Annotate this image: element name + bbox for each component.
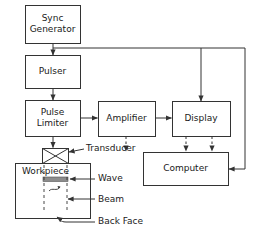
block-display [173,102,231,137]
callout-label-beam: Beam [98,194,124,204]
callout-label-wave: Wave [98,173,123,183]
block-amplifier [99,102,156,137]
data-links-to-computer [126,137,212,152]
transducer-label: Transducer [86,143,135,153]
leader-transducer [69,149,84,152]
diagram-vector-layer [0,0,258,237]
workpiece-label: Workpiece [22,166,69,176]
callout-label-back-face: Back Face [98,216,143,226]
block-sync-generator [26,6,81,44]
block-pulse-limiter [26,101,81,137]
diagram-canvas: Sync Generator Pulser Pulse Limiter Ampl… [0,0,258,237]
block-pulser [26,56,81,89]
wave-band [43,177,68,182]
block-computer [144,153,229,186]
